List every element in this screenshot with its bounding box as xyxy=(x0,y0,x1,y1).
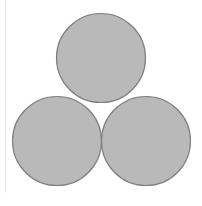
venn-circle-fills xyxy=(13,14,191,186)
venn-diagram-svg xyxy=(0,0,202,206)
venn-diagram-canvas xyxy=(0,0,202,206)
